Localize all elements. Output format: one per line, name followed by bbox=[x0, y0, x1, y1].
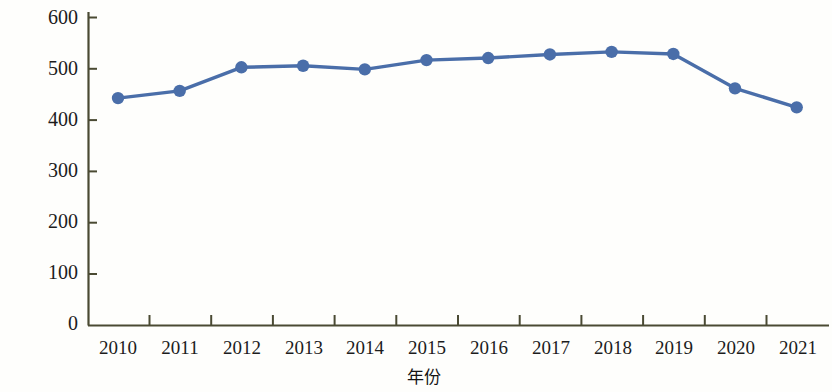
data-point-2015 bbox=[420, 54, 432, 66]
co2-emissions-line-chart: CO2排放量/万t 600 500 400 300 200 100 0 bbox=[0, 0, 832, 392]
data-point-2019 bbox=[667, 48, 679, 60]
data-series-co2 bbox=[112, 46, 803, 114]
data-point-markers bbox=[112, 46, 803, 114]
x-tick-label-2021: 2021 bbox=[758, 337, 832, 359]
data-point-2017 bbox=[544, 48, 556, 60]
data-point-2018 bbox=[605, 46, 617, 58]
x-axis-ticks bbox=[150, 315, 767, 325]
data-point-2012 bbox=[235, 61, 247, 73]
data-point-2011 bbox=[174, 85, 186, 97]
plot-area bbox=[0, 0, 832, 392]
x-axis-tick-labels: 2010 2011 2012 2013 2014 2015 2016 2017 … bbox=[0, 337, 832, 365]
x-axis-title: 年份 bbox=[0, 363, 832, 388]
data-point-2016 bbox=[482, 52, 494, 64]
data-point-2014 bbox=[359, 63, 371, 75]
data-point-2020 bbox=[729, 82, 741, 94]
data-point-2013 bbox=[297, 60, 309, 72]
data-point-2010 bbox=[112, 92, 124, 104]
x-axis-title-text: 年份 bbox=[407, 368, 441, 387]
data-point-2021 bbox=[791, 101, 803, 113]
